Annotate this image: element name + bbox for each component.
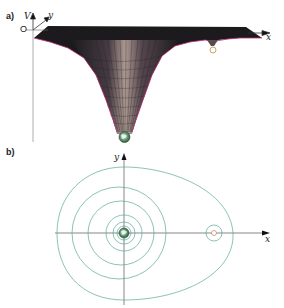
potential-surface — [34, 26, 262, 134]
earth-icon — [119, 132, 130, 143]
earth-icon-2d — [119, 228, 129, 238]
moon-icon-2d — [212, 231, 217, 236]
outer-contour — [57, 167, 233, 300]
x-axis-arrowhead — [262, 231, 270, 236]
y-axis-3d-shaft — [33, 20, 46, 30]
diagram-svg — [0, 0, 284, 308]
v-axis-arrowhead — [31, 13, 36, 19]
y-axis-arrowhead — [122, 153, 127, 160]
figure: a) b) V y O x y x — [0, 0, 284, 308]
x-axis-3d-arrowhead — [262, 31, 270, 36]
moon-icon — [210, 47, 216, 53]
moon-dip — [207, 40, 218, 46]
contour-plot — [55, 153, 270, 305]
